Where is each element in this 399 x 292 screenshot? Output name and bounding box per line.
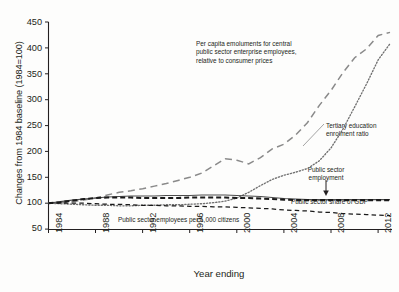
plot-canvas (0, 0, 399, 292)
annotation-arrow-public-sector-employment (323, 180, 329, 196)
annotation-leader-tertiary (303, 124, 324, 146)
series-line-tertiary-education (49, 44, 391, 206)
series-line-emoluments (49, 32, 391, 203)
chart-figure: Changes from 1984 baseline (1984=100) 45… (0, 0, 399, 292)
